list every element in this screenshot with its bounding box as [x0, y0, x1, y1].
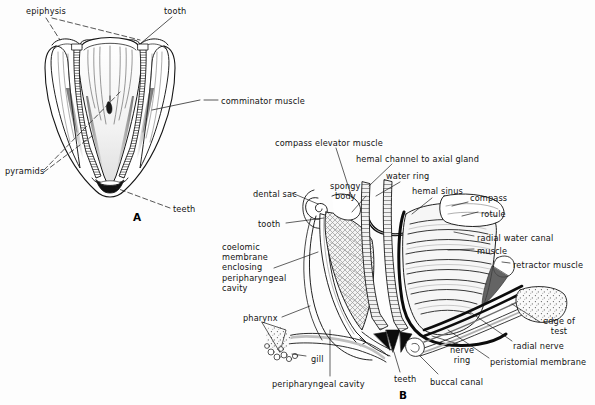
figure-page: epiphysis tooth comminator muscle pyrami…: [0, 0, 595, 405]
panel-b-letter: B: [399, 389, 407, 401]
label-peripharyngeal-cavity: peripharyngeal cavity: [272, 379, 365, 389]
label-spongy-body: spongy body: [330, 181, 361, 201]
label-comminator-muscle: comminator muscle: [221, 96, 305, 106]
label-coelomic-membrane-enclosing-peripharyngeal-cavity: coelomic membrane enclosing peripharynge…: [222, 242, 286, 293]
panel-a-letter: A: [133, 211, 141, 223]
label-buccal-canal: buccal canal: [430, 377, 483, 387]
label-pyramids: pyramids: [5, 166, 44, 176]
label-nerve-ring: nerve ring: [450, 345, 474, 365]
label-teeth-a: teeth: [173, 204, 195, 214]
label-tooth-b: tooth: [258, 219, 280, 229]
label-epiphysis: epiphysis: [26, 6, 66, 16]
label-compass: compass: [470, 193, 507, 203]
label-retractor-muscle: retractor muscle: [513, 260, 583, 270]
label-pharynx: pharynx: [243, 313, 278, 323]
label-gill: gill: [311, 354, 324, 364]
label-hemal-sinus: hemal sinus: [412, 186, 463, 196]
label-edge-of-test: edge of test: [543, 316, 575, 336]
label-water-ring: water ring: [386, 171, 429, 181]
label-rotule: rotule: [481, 209, 506, 219]
label-radial-nerve: radial nerve: [513, 341, 564, 351]
label-dental-sac: dental sac: [253, 189, 297, 199]
label-peristomial-membrane: peristomial membrane: [490, 357, 586, 367]
label-teeth-b: teeth: [394, 374, 416, 384]
label-hemal-channel-to-axial-gland: hemal channel to axial gland: [356, 154, 479, 164]
label-radial-water-canal: radial water canal: [477, 233, 553, 243]
label-muscle: muscle: [477, 246, 507, 256]
label-tooth-a: tooth: [164, 6, 186, 16]
label-compass-elevator-muscle: compass elevator muscle: [275, 138, 383, 148]
